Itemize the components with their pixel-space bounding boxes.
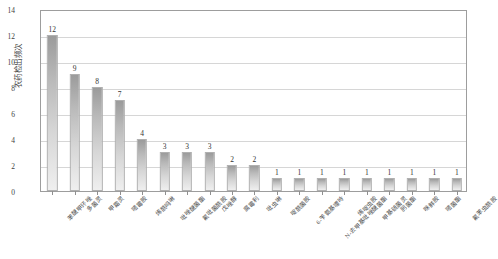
y-axis-tick-label: 10 [0, 58, 15, 67]
bar-slot[interactable]: 1 [446, 11, 468, 191]
x-axis-category-label: 烯酰吗啉 [153, 194, 177, 218]
bar-slot[interactable]: 3 [153, 11, 175, 191]
y-axis-tick-label: 2 [0, 162, 15, 171]
bar-slot[interactable]: 12 [41, 11, 63, 191]
bar-value-label: 7 [118, 90, 122, 99]
bar-slot[interactable]: 1 [266, 11, 288, 191]
bar-value-label: 2 [230, 155, 234, 164]
bar-slot[interactable]: 1 [356, 11, 378, 191]
bar-slot[interactable]: 1 [423, 11, 445, 191]
x-axis-category-label: 啶酰菌胺 [288, 194, 312, 218]
bar-slot[interactable]: 1 [378, 11, 400, 191]
bar[interactable] [114, 100, 124, 191]
bar[interactable] [339, 178, 349, 191]
bar[interactable] [317, 178, 327, 191]
bar-value-label: 1 [365, 168, 369, 177]
x-axis-category-label: 甲霜灵 [107, 194, 127, 214]
bar-value-label: 1 [387, 168, 391, 177]
bar[interactable] [159, 152, 169, 191]
bar[interactable] [452, 178, 462, 191]
bar-value-label: 8 [95, 77, 99, 86]
bar-slot[interactable]: 2 [221, 11, 243, 191]
y-axis-tick-label: 0 [0, 188, 15, 197]
y-axis-tick-label: 8 [0, 84, 15, 93]
x-axis-category-label: 嘧霉胺 [129, 194, 149, 214]
y-axis-tick-label: 14 [0, 6, 15, 15]
plot-area: 12987433322111111111 [40, 10, 467, 192]
bar-slot[interactable]: 2 [243, 11, 265, 191]
bar-value-label: 9 [73, 64, 77, 73]
bar[interactable] [137, 139, 147, 191]
bar-slot[interactable]: 7 [108, 11, 130, 191]
bar-slot[interactable]: 1 [311, 11, 333, 191]
bar[interactable] [204, 152, 214, 191]
bar-value-label: 3 [163, 142, 167, 151]
x-axis-category-label: 氟苯虫酰胺 [470, 194, 498, 222]
x-axis-category-label: 6-苄氨基嘌呤 [314, 194, 346, 226]
bar[interactable] [362, 178, 372, 191]
y-axis-tick-label: 6 [0, 110, 15, 119]
bar-slot[interactable]: 8 [86, 11, 108, 191]
bar-value-label: 12 [48, 25, 56, 34]
bar-value-label: 4 [140, 129, 144, 138]
bar-series: 12987433322111111111 [41, 11, 466, 191]
bar[interactable] [249, 165, 259, 191]
bar-slot[interactable]: 1 [333, 11, 355, 191]
x-axis-category-label: 咪鲜胺 [421, 194, 441, 214]
bar-value-label: 1 [275, 168, 279, 177]
bar-slot[interactable]: 3 [176, 11, 198, 191]
bar[interactable] [182, 152, 192, 191]
bar-value-label: 2 [253, 155, 257, 164]
bar-value-label: 1 [410, 168, 414, 177]
bar-value-label: 1 [432, 168, 436, 177]
bar[interactable] [384, 178, 394, 191]
bar-value-label: 3 [185, 142, 189, 151]
bar-value-label: 1 [298, 168, 302, 177]
bar-slot[interactable]: 1 [401, 11, 423, 191]
y-axis-tick-label: 4 [0, 136, 15, 145]
bar-slot[interactable]: 3 [198, 11, 220, 191]
bar-slot[interactable]: 4 [131, 11, 153, 191]
bar[interactable] [429, 178, 439, 191]
x-axis-category-label: 嘧菌酯 [444, 194, 464, 214]
bar[interactable] [227, 165, 237, 191]
bar[interactable] [407, 178, 417, 191]
y-axis-tick-label: 12 [0, 32, 15, 41]
bar-slot[interactable]: 1 [288, 11, 310, 191]
bar-value-label: 1 [343, 168, 347, 177]
bar[interactable] [272, 178, 282, 191]
x-axis-category-labels: 苯醚甲环唑多菌灵甲霜灵嘧霉胺烯酰吗啉吡唑醚菌酯氟吡菌酰胺戊唑醇腐霉利吡虫啉啶酰菌… [40, 194, 467, 259]
x-axis-category-label: 吡虫啉 [264, 194, 284, 214]
bar-value-label: 1 [455, 168, 459, 177]
bar-value-label: 3 [208, 142, 212, 151]
bar[interactable] [92, 87, 102, 191]
bar[interactable] [294, 178, 304, 191]
bar-value-label: 1 [320, 168, 324, 177]
bar[interactable] [47, 35, 57, 191]
x-axis-category-label: 腐霉利 [241, 194, 261, 214]
bar-slot[interactable]: 9 [63, 11, 85, 191]
bar[interactable] [70, 74, 80, 191]
